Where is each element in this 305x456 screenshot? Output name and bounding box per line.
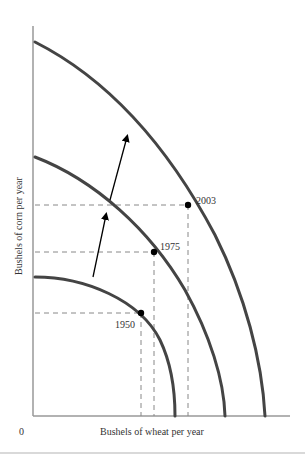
origin-label: 0 [19, 426, 24, 437]
shift-arrows [93, 137, 127, 277]
ppf-diagram: 1950 1975 2003 Bushels of corn per year … [0, 0, 305, 456]
point-2003 [185, 202, 191, 208]
x-axis-label: Bushels of wheat per year [100, 426, 205, 437]
label-1950: 1950 [115, 319, 135, 330]
point-1950 [138, 310, 144, 316]
guide-lines [35, 205, 188, 416]
label-2003: 2003 [196, 195, 216, 206]
arrow-1975-2003 [110, 137, 127, 200]
ppf-2003 [35, 42, 265, 416]
label-1975: 1975 [160, 241, 180, 252]
y-axis-label: Bushels of corn per year [13, 176, 24, 274]
ppf-curves [35, 42, 265, 416]
point-1975 [151, 249, 157, 255]
arrow-1950-1975 [93, 215, 106, 277]
